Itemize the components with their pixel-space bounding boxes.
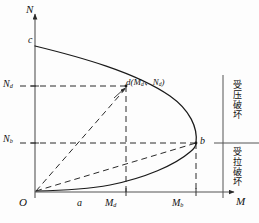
point-b-label: b — [200, 136, 205, 146]
y-axis-label: N — [26, 4, 33, 15]
point-c-label: c — [28, 35, 32, 45]
point-d-suffix: ) — [162, 77, 165, 87]
origin-label: O — [19, 197, 27, 208]
ytick-label-nb: Nb — [3, 134, 13, 145]
ytick-nd-sub: d — [10, 82, 13, 89]
point-b-marker — [195, 142, 198, 145]
point-a-label: a — [77, 198, 82, 208]
point-d-mid: 、N — [144, 77, 159, 87]
ytick-nd-main: N — [3, 78, 10, 89]
ray-origin-to-d — [36, 88, 126, 191]
xtick-label-md: Md — [105, 198, 116, 209]
point-d-coordinate-label: d(Md、Nd) — [126, 78, 165, 88]
ytick-nb-main: N — [3, 133, 10, 144]
ytick-nb-sub: b — [10, 137, 13, 144]
x-axis-label: M — [236, 196, 245, 207]
point-d-prefix: d(M — [126, 77, 141, 87]
ytick-label-nd: Nd — [3, 79, 13, 90]
curve-compression-branch — [35, 46, 196, 143]
xtick-mb-sub: b — [180, 201, 183, 208]
nm-interaction-figure: N M O c a b Nd Nb Md Mb d(Md、Nd) 受压破坏 受拉… — [0, 0, 259, 223]
xtick-label-mb: Mb — [172, 198, 183, 209]
annotation-compression-failure: 受压破坏 — [232, 80, 241, 120]
pointer-to-d — [114, 88, 125, 98]
figure-canvas — [0, 0, 259, 223]
annotation-tension-failure: 受拉破坏 — [232, 147, 241, 187]
xtick-md-sub: d — [113, 201, 116, 208]
